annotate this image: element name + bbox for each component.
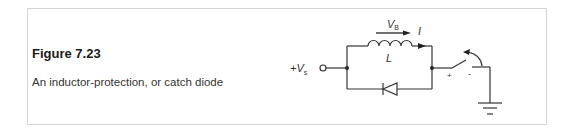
ground-icon [478,103,502,114]
source-terminal-icon [320,65,326,71]
source-label-subscript: s [304,69,308,76]
current-label: I [418,25,421,37]
switch-minus-label: - [468,69,471,79]
circuit-diagram: +Vs VB I L + - [0,0,573,133]
voltage-label: VB [387,18,399,31]
switch-action-arrowhead-icon [463,49,470,55]
switch-plus-label: + [447,71,452,80]
current-arrow-icon [418,43,426,49]
switch-action-arrow-icon [468,52,482,66]
inductor-label: L [386,52,392,64]
switch-blade-icon [452,60,466,68]
inductor-icon [368,41,412,46]
voltage-label-subscript: B [394,24,399,31]
diode-icon [383,83,397,95]
voltage-arrow-icon [403,31,411,36]
svg-text:+Vs: +Vs [290,62,308,76]
source-label: +Vs [290,62,308,76]
